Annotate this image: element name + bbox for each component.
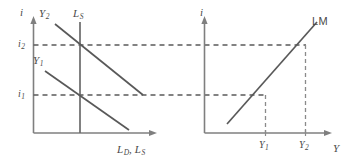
output-y2-label: Y2 [299,140,309,150]
lm-derivation-figure: i i2 i1 Y2 Y1 LS LD, LS i LM Y1 Y2 Y [0,0,349,164]
right-x-axis-arrow [324,130,332,136]
left-y-axis-label: i [20,7,23,18]
out-y1-base: Y [259,139,265,150]
money-supply-label: LS [73,8,83,19]
ld-base: L [117,143,123,155]
ls-base: L [73,7,79,19]
i2-sub: 2 [21,42,25,51]
right-x-axis-label: Y [333,143,339,154]
out-y2-sub: 2 [305,143,309,152]
interest-rate-guides [34,45,307,95]
figure-canvas [0,0,349,164]
money-demand-curve-y1 [45,71,129,130]
y1-base: Y [33,54,39,66]
ls-axis-sub: S [141,148,145,157]
out-y1-sub: 1 [265,143,269,152]
ld-sub: D [124,148,130,157]
out-y2-base: Y [299,139,305,150]
interest-rate-i1-label: i1 [18,89,25,99]
money-demand-y1-label: Y1 [33,55,43,66]
ls-sub: S [80,12,84,21]
output-y1-label: Y1 [259,140,269,150]
right-y-axis-label: i [200,7,203,18]
y1-sub: 1 [40,59,44,68]
y2-sub: 2 [46,12,50,21]
left-y-axis-arrow [30,16,36,24]
left-x-axis-arrow [149,130,157,136]
left-x-axis-label: LD, LS [117,144,145,155]
left-panel-axes [30,16,157,136]
money-demand-y2-label: Y2 [39,8,49,19]
y2-base: Y [39,7,45,19]
i1-sub: 1 [21,92,25,101]
money-demand-curve-y2 [55,24,143,95]
lm-curve-line [227,22,317,124]
right-panel-axes [201,16,332,136]
lm-curve-label: LM [312,16,328,27]
interest-rate-i2-label: i2 [18,39,25,49]
